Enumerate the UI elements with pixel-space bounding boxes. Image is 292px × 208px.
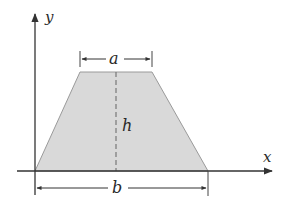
height-label: h xyxy=(122,116,132,135)
top-base-label: a xyxy=(109,49,119,68)
x-axis-label: x xyxy=(263,148,272,166)
y-axis-label: y xyxy=(44,8,54,26)
trapezoid-diagram: y x h a b xyxy=(0,0,292,208)
bottom-base-label: b xyxy=(112,178,122,197)
